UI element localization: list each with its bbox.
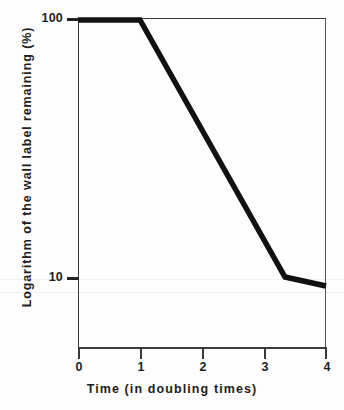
x-tick-4 [325, 348, 327, 359]
x-tick-label-2: 2 [188, 360, 218, 374]
x-tick-2 [202, 348, 204, 359]
x-tick-1 [140, 348, 142, 359]
x-tick-label-0: 0 [64, 360, 94, 374]
x-axis-title: Time (in doubling times) [0, 382, 344, 396]
y-tick-label-10: 10 [49, 270, 63, 284]
x-tick-label-4: 4 [312, 360, 342, 374]
x-tick-label-3: 3 [250, 360, 280, 374]
chart-figure: 0 1 2 3 4 100 10 Time (in doubling times… [0, 0, 344, 410]
y-tick-label-100: 100 [42, 11, 63, 25]
x-tick-3 [264, 348, 266, 359]
y-tick-10 [67, 277, 79, 280]
x-tick-label-1: 1 [126, 360, 156, 374]
y-axis-title: Logarithm of the wall label remaining (%… [20, 7, 34, 327]
y-tick-100 [67, 18, 79, 21]
plot-area [78, 18, 326, 348]
x-tick-0 [78, 348, 80, 359]
